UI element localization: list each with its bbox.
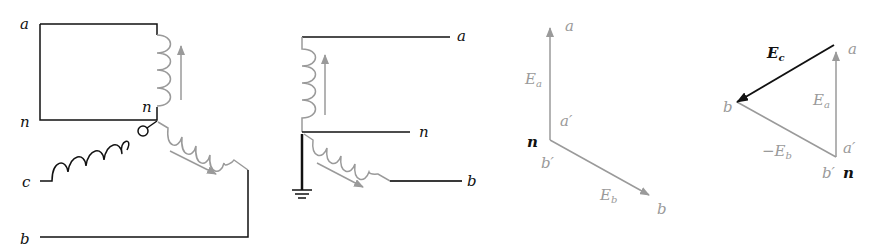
label-b: b [467,172,477,190]
panel-2-grounded-diagram: a n b [292,27,477,198]
label-n: n [843,164,854,182]
label-b: b [723,98,733,116]
circuit-diagram: a n n c b a n b a Ea a′ n b′ Eb b [0,0,877,249]
coil-b [304,134,462,181]
label-n-center: n [142,98,152,116]
coil-a [157,35,171,106]
panel-3-phasor-diagram: a Ea a′ n b′ Eb b [524,17,667,218]
label-b-prime: b′ [822,164,836,182]
label-Ec: Ec [766,44,785,63]
label-a: a [565,17,574,35]
arrow-coil-b [170,151,216,174]
coil-b [158,122,248,171]
wire-a [40,24,157,35]
phasor-neg-Eb [737,102,836,157]
label-a-prime: a′ [560,112,573,130]
label-b: b [20,230,30,248]
label-a-prime: a′ [843,139,856,157]
coil-a [302,37,316,132]
junction-ring [138,126,148,136]
label-a: a [848,40,857,58]
coil-c [40,141,129,181]
label-n: n [419,123,429,141]
label-n-left: n [20,113,30,131]
label-b: b [657,200,667,218]
label-c: c [22,173,31,191]
label-a: a [457,27,466,45]
label-b-prime: b′ [541,154,555,172]
panel-4-phasor-triangle: Ec a b Ea −Eb a′ b′ n [723,40,857,182]
ground-icon [292,190,312,198]
label-n: n [527,133,538,151]
wire-n-left [40,24,157,120]
label-neg-Eb: −Eb [762,142,792,161]
wire-ring-link [147,121,157,128]
label-a: a [20,15,29,33]
label-Ea: Ea [524,70,542,89]
label-Ea: Ea [812,91,830,110]
wire-b [40,170,248,237]
label-Eb: Eb [599,186,617,205]
panel-1-winding-diagram: a n n c b [20,15,248,248]
